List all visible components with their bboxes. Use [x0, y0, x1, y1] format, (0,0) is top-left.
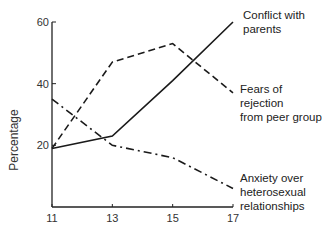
x-tick-label: 15	[167, 212, 179, 224]
legend-anxiety: Anxiety over heterosexual relationships	[240, 171, 306, 213]
series-line-0	[52, 22, 233, 148]
x-tick-label: 17	[227, 212, 239, 224]
y-ticks: 204060	[37, 16, 56, 151]
legend-line: Fears of rejection	[240, 82, 327, 110]
legend-line: from peer group	[240, 110, 327, 124]
x-tick-label: 11	[46, 212, 57, 224]
legend-line: relationships	[240, 199, 306, 213]
series-line-1	[52, 44, 233, 149]
y-tick-label: 60	[37, 16, 49, 28]
legend-line: heterosexual	[240, 185, 306, 199]
legend-line: Conflict with	[243, 8, 305, 22]
legend-line: parents	[243, 22, 305, 36]
legend-fears-of-rejection: Fears of rejection from peer group	[240, 82, 327, 124]
legend-conflict-with-parents: Conflict with parents	[243, 8, 305, 36]
y-tick-label: 40	[37, 78, 49, 90]
legend-line: Anxiety over	[240, 171, 306, 185]
series-lines	[52, 22, 233, 189]
y-axis-label: Percentage	[7, 109, 21, 171]
y-tick-label: 20	[37, 139, 49, 151]
series-line-2	[52, 99, 233, 188]
x-tick-label: 13	[106, 212, 118, 224]
